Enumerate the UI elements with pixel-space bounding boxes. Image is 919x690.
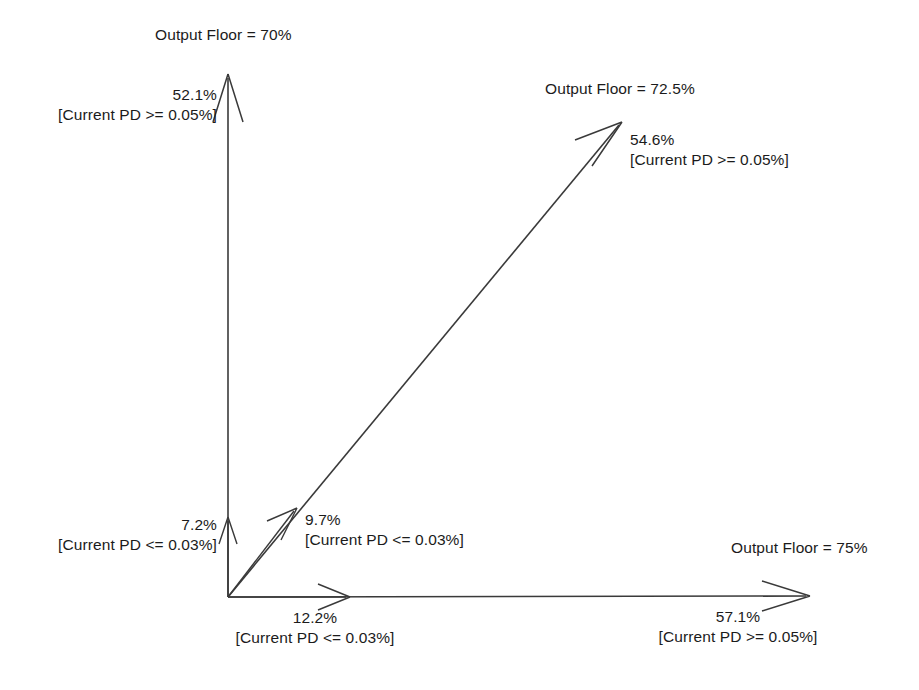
condition-text: [Current PD >= 0.05%]	[630, 150, 789, 170]
caption-text: Output Floor = 75%	[731, 538, 868, 558]
condition-text: [Current PD <= 0.03%]	[305, 530, 464, 550]
short-vertical-arrow	[219, 517, 237, 597]
caption-text: Output Floor = 70%	[155, 25, 292, 45]
diagram-canvas: Output Floor = 70% Output Floor = 72.5% …	[0, 0, 919, 690]
condition-text: [Current PD >= 0.05%]	[618, 627, 858, 647]
short-horizontal-arrow	[228, 584, 350, 610]
value-text: 54.6%	[630, 130, 789, 150]
diagonal-value-label: 54.6% [Current PD >= 0.05%]	[630, 130, 789, 170]
short-diagonal-arrow	[228, 508, 297, 597]
condition-text: [Current PD <= 0.03%]	[196, 628, 434, 648]
value-text: 52.1%	[58, 85, 217, 105]
value-text: 12.2%	[196, 608, 434, 628]
xaxis-value-label: 57.1% [Current PD >= 0.05%]	[618, 607, 858, 647]
caption-text: Output Floor = 72.5%	[545, 79, 695, 99]
output-floor-70-caption: Output Floor = 70%	[155, 25, 292, 45]
value-text: 57.1%	[618, 607, 858, 627]
short-diagonal-value-label: 9.7% [Current PD <= 0.03%]	[305, 510, 464, 550]
output-floor-75-caption: Output Floor = 75%	[731, 538, 868, 558]
short-vertical-value-label: 7.2% [Current PD <= 0.03%]	[58, 515, 217, 555]
yaxis-value-label: 52.1% [Current PD >= 0.05%]	[58, 85, 217, 125]
value-text: 9.7%	[305, 510, 464, 530]
condition-text: [Current PD >= 0.05%]	[58, 105, 217, 125]
value-text: 7.2%	[58, 515, 217, 535]
condition-text: [Current PD <= 0.03%]	[58, 535, 217, 555]
output-floor-725-caption: Output Floor = 72.5%	[545, 79, 695, 99]
short-horizontal-value-label: 12.2% [Current PD <= 0.03%]	[196, 608, 434, 648]
